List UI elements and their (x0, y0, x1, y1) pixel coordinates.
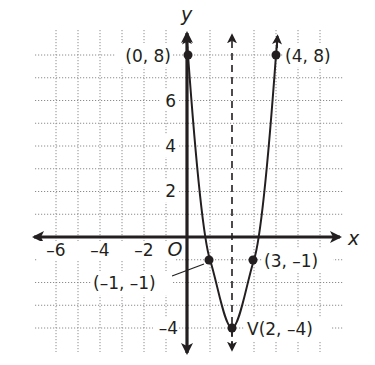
tick-label-x-m4: –4 (90, 240, 109, 260)
tick-label-y-4: 4 (165, 136, 176, 156)
point-0-8 (184, 51, 193, 60)
label-point-1-m1: (–1, –1) (93, 273, 156, 293)
label-vertex: V(2, –4) (247, 319, 313, 339)
vertex-point (228, 324, 237, 333)
tick-label-x-m2: –2 (134, 240, 153, 260)
y-axis-label: y (180, 3, 193, 25)
label-point-4-8: (4, 8) (285, 46, 331, 66)
x-axis-label: x (347, 227, 360, 249)
tick-label-y-6: 6 (165, 91, 176, 111)
label-point-0-8: (0, 8) (125, 46, 171, 66)
label-point-3-m1: (3, –1) (264, 251, 318, 271)
point-1-m1 (205, 256, 214, 265)
origin-label: O (168, 238, 183, 260)
tick-label-x-m6: –6 (46, 240, 65, 260)
tick-label-y-2: 2 (165, 181, 176, 201)
parabola-graph: (0, 8) (4, 8) (3, –1) (–1, –1) V(2, –4) … (0, 0, 375, 365)
curve-arrow-left (187, 36, 188, 48)
point-3-m1 (249, 256, 258, 265)
tick-label-y-m4: –4 (159, 318, 178, 338)
point-4-8 (272, 51, 281, 60)
curve-arrow-right (277, 36, 278, 48)
